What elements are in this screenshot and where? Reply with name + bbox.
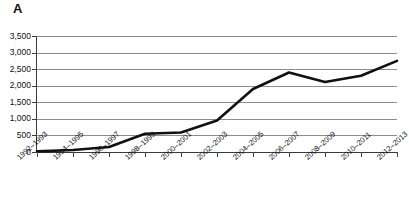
y-axis-tick	[32, 86, 37, 87]
y-axis-tick-label: 1,500	[1, 98, 31, 107]
y-axis-tick	[32, 119, 37, 120]
y-axis-tick	[32, 135, 37, 136]
y-axis-tick-label: 1,000	[1, 114, 31, 123]
y-axis-tick-label: 3,000	[1, 48, 31, 57]
y-axis-tick	[32, 69, 37, 70]
y-axis-tick	[32, 53, 37, 54]
y-axis-tick	[32, 152, 37, 153]
x-axis-labels: 1992–19931994–19951996–19971998–19992000…	[0, 155, 409, 203]
y-axis-tick	[32, 102, 37, 103]
y-axis-tick	[32, 36, 37, 37]
y-axis-tick-label: 500	[1, 131, 31, 140]
y-axis-tick-label: 2,000	[1, 81, 31, 90]
chart-figure: A 05001,0001,5002,0002,5003,0003,500 199…	[0, 0, 409, 203]
y-axis-tick-label: 2,500	[1, 65, 31, 74]
y-axis-tick-label: 3,500	[1, 32, 31, 41]
